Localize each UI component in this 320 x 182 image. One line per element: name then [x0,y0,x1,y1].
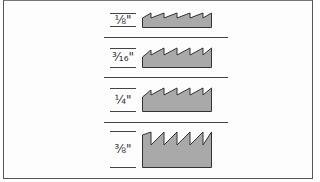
label-top-line [110,88,136,89]
size-label: ¼" [110,93,136,107]
label-bottom-line [110,111,136,112]
size-label: ⅛" [110,13,136,27]
label-bottom-line [110,167,136,168]
size-label: ³⁄₁₆" [110,50,136,64]
tooth-profile-1-4 [142,87,212,112]
tooth-profile-1-8 [142,12,212,28]
tooth-profile-3-16 [142,47,212,68]
label-bottom-line [110,67,136,68]
row-separator [104,37,228,38]
size-label: ⅜" [110,142,136,156]
label-top-line [110,48,136,49]
row-separator [104,122,228,123]
label-top-line [110,131,136,132]
tooth-profile-3-8 [142,131,212,168]
row-separator [104,77,228,78]
label-bottom-line [110,26,136,27]
